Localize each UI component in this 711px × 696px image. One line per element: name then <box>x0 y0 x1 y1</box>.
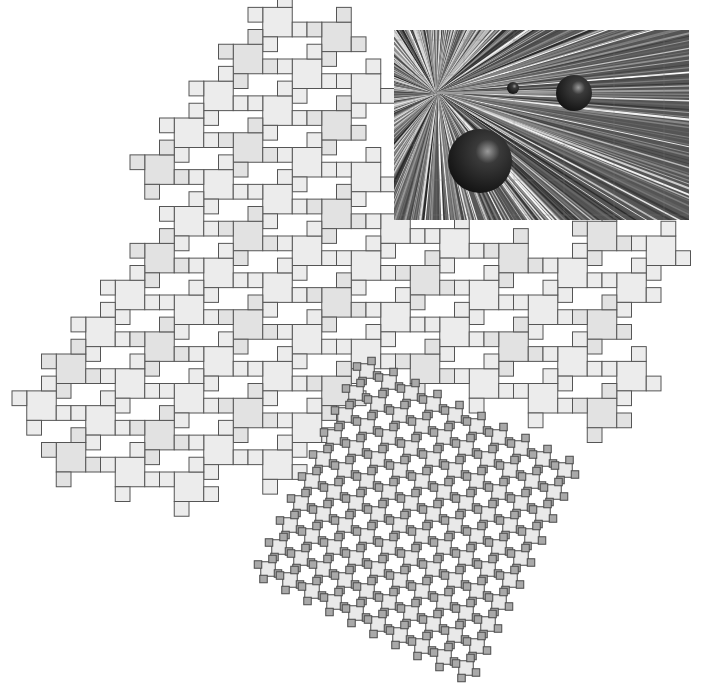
sphere-3 <box>507 82 519 94</box>
spheres-render-image <box>394 30 689 220</box>
fractal-figure: Fractal tiling of cross-shaped tiles wit… <box>0 0 711 696</box>
sphere-2 <box>556 75 592 111</box>
sphere-1 <box>448 129 512 193</box>
ray-traced-render-inset <box>394 30 689 220</box>
